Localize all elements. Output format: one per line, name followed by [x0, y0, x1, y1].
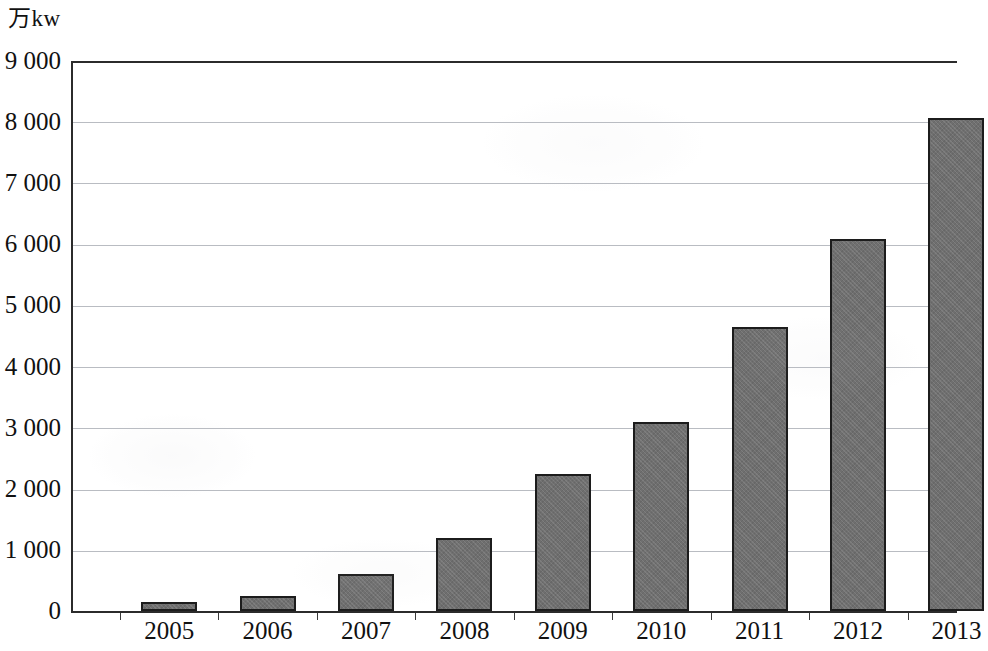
y-axis-tick-label: 3 000 — [0, 415, 61, 440]
bar — [732, 327, 788, 611]
x-axis-tick-label: 2010 — [606, 617, 716, 645]
gridline — [73, 122, 957, 123]
gridline — [73, 428, 957, 429]
bar — [436, 538, 492, 611]
x-axis-tick-label: 2005 — [114, 617, 224, 645]
plot-top-border — [71, 61, 957, 63]
y-axis-tick-label: 7 000 — [0, 170, 61, 195]
bar — [141, 602, 197, 611]
gridline — [73, 367, 957, 368]
plot-area — [71, 61, 957, 613]
x-axis-tick-label: 2006 — [213, 617, 323, 645]
y-axis-tick-label: 5 000 — [0, 292, 61, 317]
bar — [240, 596, 296, 611]
y-axis-tick-label: 4 000 — [0, 354, 61, 379]
gridline — [73, 183, 957, 184]
y-axis-tick-label: 0 — [0, 598, 61, 623]
y-axis-tick-label: 6 000 — [0, 231, 61, 256]
bar — [535, 474, 591, 611]
y-axis-tick-label: 9 000 — [0, 48, 61, 73]
x-axis-tick-label: 2009 — [508, 617, 618, 645]
y-axis-tick-label: 8 000 — [0, 109, 61, 134]
gridline — [73, 306, 957, 307]
y-axis-unit-label: 万kw — [8, 6, 61, 32]
gridline — [73, 551, 957, 552]
x-axis-tick-label: 2008 — [409, 617, 519, 645]
x-axis-tick-label: 2007 — [311, 617, 421, 645]
bar — [338, 574, 394, 611]
y-axis-tick-label: 2 000 — [0, 476, 61, 501]
x-axis-tick-label: 2012 — [803, 617, 913, 645]
bar — [830, 239, 886, 611]
gridline — [73, 490, 957, 491]
bar — [633, 422, 689, 611]
y-axis-tick-label: 1 000 — [0, 537, 61, 562]
y-axis-line — [71, 61, 73, 613]
x-axis-tick-label: 2011 — [705, 617, 815, 645]
bar — [928, 118, 984, 611]
x-axis-tick-label: 2013 — [901, 617, 988, 645]
gridline — [73, 245, 957, 246]
